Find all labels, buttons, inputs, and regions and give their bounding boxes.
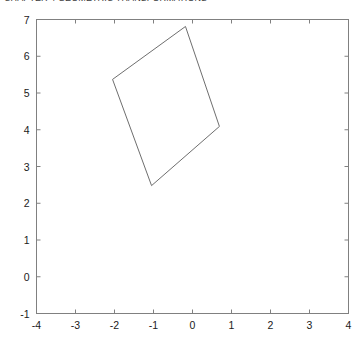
plot-frame [37,20,349,314]
y-tick-label: 2 [24,197,30,209]
x-tick-label: 1 [229,319,235,331]
rotated-square-polygon [113,26,220,185]
x-tick-label: -1 [149,319,158,331]
y-tick-label: 7 [24,14,30,26]
y-tick-label: 3 [24,161,30,173]
x-tick-label: 0 [190,319,196,331]
y-tick-label: 4 [24,124,30,136]
x-axis-ticks [37,20,349,314]
y-tick-label: 5 [24,87,30,99]
x-tick-label: 2 [268,319,274,331]
y-tick-label: -1 [20,308,29,320]
x-tick-label: -4 [32,319,41,331]
x-axis-tick-labels: -4-3-2-101234 [32,319,352,331]
x-tick-label: -2 [110,319,119,331]
plot-canvas: -4-3-2-101234 -101234567 [0,0,362,347]
y-axis-tick-labels: -101234567 [20,14,30,320]
x-tick-label: 4 [346,319,352,331]
y-tick-label: 6 [24,50,30,62]
x-tick-label: 3 [307,319,313,331]
y-tick-label: 1 [24,234,30,246]
y-tick-label: 0 [24,271,30,283]
y-axis-ticks [37,20,349,314]
x-tick-label: -3 [71,319,80,331]
figure-container: CHAPTER 4 GEOMETRIC TRANSFORMATIONS -4-3… [0,0,362,347]
